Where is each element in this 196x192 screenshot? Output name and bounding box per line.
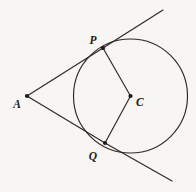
point-label-c: C (136, 96, 144, 108)
point-label-p: P (89, 34, 97, 46)
figure-background (0, 0, 196, 192)
vertex-dot-p (101, 46, 105, 50)
point-label-a: A (12, 98, 21, 110)
vertex-dot-q (103, 141, 107, 145)
geometry-canvas: A P C Q (0, 0, 196, 192)
point-label-q: Q (89, 150, 97, 162)
vertex-dot-a (25, 94, 29, 98)
vertex-dot-c (128, 94, 132, 98)
geometry-figure: A P C Q (0, 0, 196, 192)
